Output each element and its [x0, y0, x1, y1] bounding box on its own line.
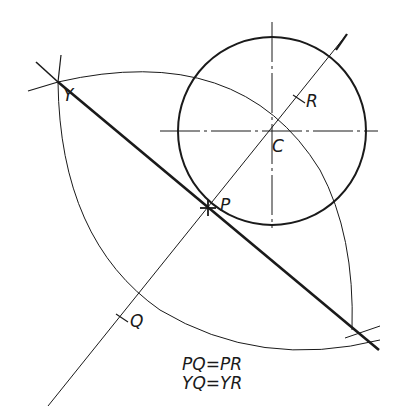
radius-extension-tip [336, 34, 347, 50]
label-r: R [306, 91, 318, 111]
equation-2: YQ=YR [182, 373, 242, 393]
y-mark-1 [36, 62, 58, 82]
label-c: C [272, 136, 284, 156]
tangent-line [58, 82, 379, 350]
equation-1: PQ=PR [182, 354, 242, 374]
label-p: P [220, 195, 231, 215]
geometry-diagram: Y P C R Q PQ=PR YQ=YR [0, 0, 398, 409]
q-tick [116, 314, 128, 322]
y-mark-2 [28, 82, 58, 91]
y-mark-3 [58, 55, 61, 82]
label-q: Q [130, 311, 143, 331]
label-y: Y [63, 85, 75, 105]
